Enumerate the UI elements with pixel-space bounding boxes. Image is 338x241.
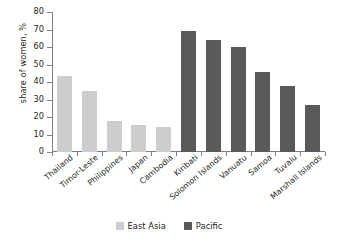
y-axis-tick-label: 0	[39, 146, 44, 157]
plot-area: 01020304050607080	[52, 12, 325, 152]
bar	[181, 31, 196, 152]
x-axis-tick-label: Philippines	[119, 153, 125, 160]
y-axis-tick: 20	[47, 117, 52, 118]
legend-swatch-icon	[184, 222, 192, 230]
legend-label: East Asia	[128, 221, 166, 231]
y-axis-tick: 70	[47, 30, 52, 31]
y-axis-tick-label: 50	[34, 59, 44, 70]
bar	[305, 105, 320, 152]
y-axis-tick: 60	[47, 47, 52, 48]
bar-chart-figure: share of women, % 01020304050607080 Thai…	[0, 0, 338, 241]
chart-legend: East AsiaPacific	[0, 221, 338, 231]
bars-group	[52, 12, 325, 152]
legend-item[interactable]: East Asia	[116, 221, 166, 231]
y-axis-tick: 80	[47, 12, 52, 13]
y-axis-tick-label: 60	[34, 41, 44, 52]
x-axis-tick-label: Samoa	[268, 153, 274, 160]
bar	[255, 72, 270, 153]
x-axis-tick-label: Cambodia	[169, 153, 175, 160]
bar	[231, 47, 246, 152]
bar	[82, 91, 97, 152]
bar	[206, 40, 221, 152]
y-axis-tick-label: 20	[34, 111, 44, 122]
bar	[107, 121, 122, 153]
y-axis-tick-label: 10	[34, 129, 44, 140]
x-axis-tick-label: Kiribati	[194, 153, 200, 160]
y-axis-tick: 50	[47, 65, 52, 66]
x-axis-labels: ThailandTimor-LestePhilippinesJapanCambo…	[52, 153, 325, 213]
x-axis-tick-label: Marshall Islands	[318, 153, 324, 160]
x-axis-tick-label: Japan	[144, 153, 150, 160]
legend-item[interactable]: Pacific	[184, 221, 223, 231]
x-axis-tick-label-text: Vanuatu	[218, 153, 249, 181]
x-axis-tick	[325, 152, 326, 156]
y-axis-tick-label: 70	[34, 24, 44, 35]
y-axis-tick-label: 30	[34, 94, 44, 105]
bar	[280, 86, 295, 153]
y-axis-tick: 40	[47, 82, 52, 83]
y-axis-tick: 10	[47, 135, 52, 136]
x-axis-tick-label: Tuvalu	[293, 153, 299, 160]
y-axis-tick: 30	[47, 100, 52, 101]
x-axis-tick-label: Timor-Leste	[94, 153, 100, 160]
x-axis-tick-label: Vanuatu	[243, 153, 249, 160]
y-axis-tick-label: 80	[34, 6, 44, 17]
bar	[156, 127, 171, 152]
bar	[57, 76, 72, 152]
legend-label: Pacific	[196, 221, 223, 231]
bar	[131, 125, 146, 152]
y-axis-title: share of women, %	[18, 9, 28, 117]
legend-swatch-icon	[116, 222, 124, 230]
x-axis-tick-label-text: Samoa	[247, 153, 274, 178]
y-axis-tick-label: 40	[34, 76, 44, 87]
x-axis-tick-label: Thailand	[69, 153, 75, 160]
x-axis-tick-label: Solomon Islands	[218, 153, 224, 160]
